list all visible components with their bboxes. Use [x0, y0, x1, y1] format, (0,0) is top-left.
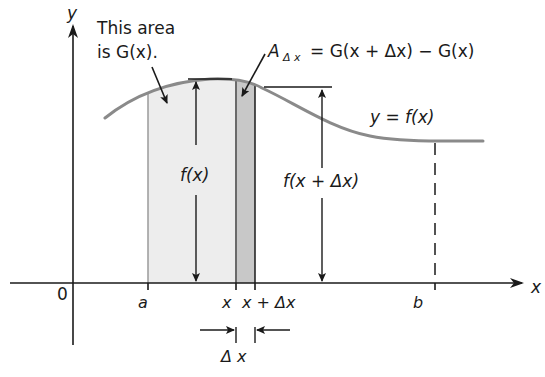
- delta-x-label: Δ x: [219, 347, 247, 366]
- area-function-diagram: y x 0 a x x + Δx b This area is G(x). A …: [0, 0, 545, 377]
- curve-label: y = f(x): [369, 107, 434, 127]
- area-strip-delta: [235, 80, 255, 283]
- tick-label-b: b: [413, 293, 423, 312]
- height-fx-label: f(x): [180, 165, 209, 185]
- tick-label-x: x: [221, 293, 232, 312]
- tick-label-a: a: [138, 293, 148, 312]
- x-axis-label: x: [530, 277, 542, 297]
- area-note-line2: is G(x).: [97, 42, 158, 62]
- area-note-line1: This area: [96, 18, 175, 38]
- delta-x-bracket: [200, 327, 290, 343]
- strip-formula-subscript: Δ x: [282, 51, 301, 64]
- tick-label-x-plus-dx: x + Δx: [241, 293, 296, 312]
- height-fx-dx-label: f(x + Δx): [283, 171, 359, 191]
- origin-label: 0: [57, 284, 68, 304]
- strip-formula-A: A: [267, 41, 280, 61]
- y-axis-label: y: [66, 3, 78, 23]
- strip-formula-rhs: = G(x + Δx) − G(x): [310, 41, 474, 61]
